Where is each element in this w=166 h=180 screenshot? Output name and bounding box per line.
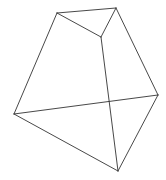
polyhedron-wireframe — [0, 0, 166, 180]
edge-BC — [101, 8, 116, 37]
edge-CF — [101, 37, 118, 171]
edge-AC — [57, 13, 101, 37]
edge-DF — [14, 114, 118, 171]
edge-BE — [116, 8, 158, 95]
edge-EF — [118, 95, 158, 171]
diagram-canvas — [0, 0, 166, 180]
edge-DE — [14, 95, 158, 114]
edge-AD — [14, 13, 57, 114]
edge-AB — [57, 8, 116, 13]
